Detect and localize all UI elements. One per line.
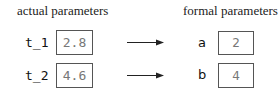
formal-value-box: 4	[218, 63, 254, 88]
right-arrow-icon	[127, 71, 165, 80]
actual-parameters-title: actual parameters	[17, 3, 108, 19]
formal-parameters-title: formal parameters	[183, 3, 278, 19]
right-arrow-icon	[127, 38, 165, 47]
formal-parameter-name: a	[198, 35, 206, 50]
formal-parameter-name: b	[198, 67, 206, 82]
formal-value-box: 2	[218, 31, 254, 55]
actual-variable-name: t_1	[25, 35, 48, 50]
actual-value-box: 4.6	[56, 63, 93, 88]
actual-value-box: 2.8	[56, 30, 93, 55]
actual-variable-name: t_2	[25, 68, 48, 83]
